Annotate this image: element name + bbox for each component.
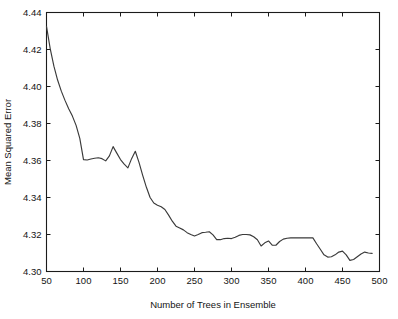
x-axis-tick-label: 300 [224,275,240,286]
y-axis-title: Mean Squared Error [2,99,13,185]
y-axis-tick-label: 4.30 [23,266,42,277]
x-axis-tick-label: 400 [298,275,314,286]
x-axis-tick-label: 450 [335,275,351,286]
x-axis-tick-label: 100 [76,275,92,286]
y-axis-tick-label: 4.34 [23,192,42,203]
chart-figure: 501001502002503003504004505004.304.324.3… [0,0,398,319]
y-axis-tick-label: 4.38 [23,118,42,129]
x-axis-title: Number of Trees in Ensemble [150,299,276,310]
x-axis-tick-label: 350 [261,275,277,286]
x-axis-tick-label: 200 [150,275,166,286]
x-axis-tick-label: 50 [41,275,52,286]
y-axis-tick-label: 4.44 [23,7,42,18]
x-axis-tick-label: 250 [187,275,203,286]
x-axis-tick-label: 150 [113,275,129,286]
chart-plot-area: 501001502002503003504004505004.304.324.3… [0,0,398,319]
y-axis-tick-label: 4.32 [23,229,42,240]
y-axis-tick-label: 4.36 [23,155,42,166]
y-axis-tick-label: 4.42 [23,44,42,55]
x-axis-tick-label: 500 [372,275,388,286]
y-axis-tick-label: 4.40 [23,81,42,92]
